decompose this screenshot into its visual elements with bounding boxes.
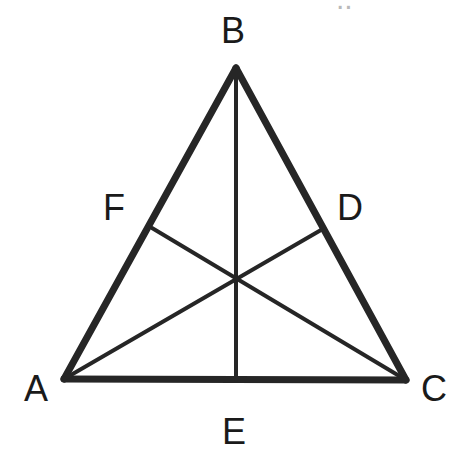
side-bc (236, 68, 406, 380)
vertex-label-f: F (103, 190, 125, 226)
cropped-glyph-artifact: .. (336, 0, 353, 14)
triangle-diagram-svg (0, 0, 459, 465)
vertex-label-c: C (421, 371, 447, 407)
vertex-label-d: D (337, 190, 363, 226)
vertex-label-e: E (222, 414, 246, 450)
vertex-label-b: B (221, 13, 245, 49)
vertex-label-a: A (24, 371, 48, 407)
geometry-figure-canvas: B F D A C E .. (0, 0, 459, 465)
side-ab (64, 68, 236, 379)
